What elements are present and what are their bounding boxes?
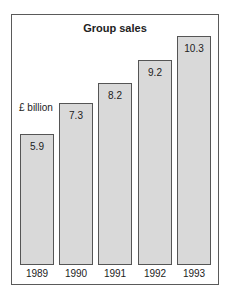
- bar-1991: 8.2: [98, 83, 132, 265]
- bar-1989: 5.9: [20, 134, 54, 265]
- y-axis-unit-label: £ billion: [19, 102, 53, 113]
- bar-value-label: 9.2: [139, 67, 171, 78]
- x-tick-label: 1993: [174, 268, 214, 279]
- bar-1993: 10.3: [177, 36, 211, 265]
- bar-value-label: 7.3: [60, 110, 92, 121]
- x-tick-label: 1992: [135, 268, 175, 279]
- bar-value-label: 8.2: [99, 90, 131, 101]
- x-tick-label: 1991: [95, 268, 135, 279]
- bar-value-label: 10.3: [178, 43, 210, 54]
- chart-title: Group sales: [11, 22, 219, 34]
- bar-value-label: 5.9: [21, 141, 53, 152]
- x-tick-label: 1990: [56, 268, 96, 279]
- bar-1992: 9.2: [138, 60, 172, 265]
- bar-1990: 7.3: [59, 103, 93, 265]
- x-tick-label: 1989: [17, 268, 57, 279]
